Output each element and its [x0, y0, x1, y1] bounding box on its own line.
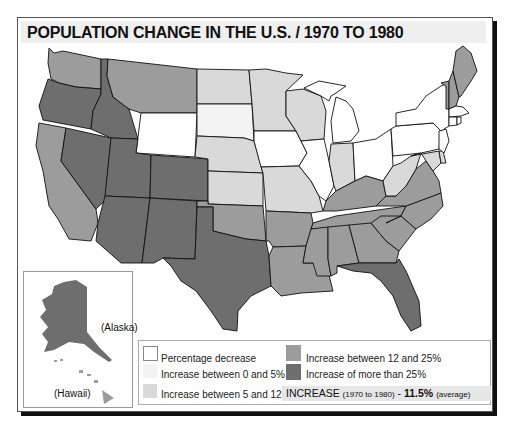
legend-swatch-12-25 — [286, 345, 301, 361]
state-rhode-island — [457, 117, 461, 125]
hawaii-island-small — [54, 360, 57, 362]
hawaii-island-small — [60, 359, 63, 361]
summary-period: (1970 to 1980) — [343, 390, 395, 399]
summary-value: 11.5% — [404, 387, 433, 399]
summary-label: INCREASE — [286, 387, 340, 399]
legend-swatch-5-12 — [143, 384, 157, 398]
state-arkansas — [266, 211, 313, 247]
legend-swatch-0-5 — [143, 364, 157, 378]
hawaii-label: (Hawaii) — [54, 388, 91, 399]
hawaii-island-small — [87, 374, 91, 376]
average-increase-summary: INCREASE (1970 to 1980) - 11.5% (average… — [282, 386, 491, 401]
state-new-jersey — [439, 129, 449, 153]
legend: Percentage decrease Increase between 0 a… — [138, 340, 491, 405]
alaska-shape — [40, 280, 112, 362]
hawaii-island-small — [79, 370, 83, 373]
state-kansas — [208, 171, 263, 206]
legend-label-over-25: Increase of more than 25% — [306, 369, 426, 380]
state-new-york — [396, 84, 449, 131]
state-michigan-lower — [331, 97, 359, 143]
alaska-label: (Alaska) — [101, 322, 138, 333]
state-pennsylvania — [391, 123, 441, 156]
state-south-dakota — [197, 104, 254, 141]
legend-swatch-decrease — [143, 346, 158, 361]
hawaii-island-small — [94, 380, 98, 383]
state-arizona — [96, 196, 150, 263]
alaska-hawaii-inset: (Alaska) (Hawaii) — [23, 271, 133, 408]
state-colorado — [150, 155, 208, 201]
state-new-mexico — [142, 198, 197, 263]
alaska-hawaii-shapes — [24, 272, 132, 407]
state-north-dakota — [197, 69, 252, 104]
state-wyoming — [136, 113, 197, 157]
state-massachusetts — [449, 106, 469, 117]
state-ohio — [353, 129, 393, 181]
state-connecticut — [449, 117, 457, 126]
legend-label-5-12: Increase between 5 and 12% — [161, 389, 291, 400]
legend-swatch-over-25 — [286, 364, 301, 380]
summary-note: (average) — [436, 390, 470, 399]
legend-label-0-5: Increase between 0 and 5% — [161, 369, 285, 380]
hawaii-island — [102, 390, 114, 404]
map-frame: POPULATION CHANGE IN THE U.S. / 1970 TO … — [17, 17, 493, 412]
legend-label-decrease: Percentage decrease — [161, 353, 256, 364]
state-florida — [337, 259, 421, 331]
legend-label-12-25: Increase between 12 and 25% — [306, 353, 441, 364]
